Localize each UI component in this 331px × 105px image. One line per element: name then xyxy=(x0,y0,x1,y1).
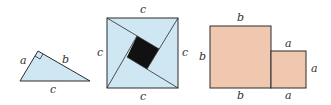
label-leg-b: b xyxy=(62,53,69,66)
label-big-bottom-b: b xyxy=(237,89,244,102)
small-square-a xyxy=(271,51,306,88)
label-hypotenuse-c: c xyxy=(50,83,56,96)
label-small-top-a: a xyxy=(285,37,292,50)
label-leg-a: a xyxy=(20,54,27,67)
label-top-c: c xyxy=(140,3,146,16)
right-triangle-figure: a b c xyxy=(20,51,90,96)
big-square-b xyxy=(210,26,271,88)
label-left-c: c xyxy=(97,46,103,59)
two-squares-figure: b b b a a a xyxy=(199,11,318,102)
label-big-top-b: b xyxy=(237,11,244,24)
label-small-right-a: a xyxy=(311,62,318,75)
right-triangle xyxy=(20,51,90,81)
label-big-left-b: b xyxy=(199,50,206,63)
label-right-c: c xyxy=(182,46,188,59)
label-bottom-c: c xyxy=(140,90,146,103)
pythagorean-diagram: a b c c c c c b b b a a a xyxy=(0,0,331,105)
label-small-bottom-a: a xyxy=(285,89,292,102)
hypotenuse-square-figure: c c c c xyxy=(97,3,188,103)
